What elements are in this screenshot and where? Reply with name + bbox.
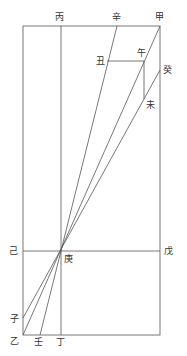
label-ren: 壬 [34,337,43,347]
label-wu2: 戊 [164,245,173,256]
label-yi: 乙 [10,336,19,346]
label-ji: 己 [9,246,18,256]
line-jia-yi [23,26,160,335]
label-wu: 午 [137,47,146,58]
label-gui: 癸 [163,64,172,75]
label-wei: 未 [146,99,155,110]
line-xin-ren [40,26,117,335]
diagram-canvas: 甲 辛 丙 丑 午 癸 未 己 戊 庚 子 乙 壬 丁 [0,0,187,356]
label-jia: 甲 [155,12,164,22]
label-ding: 丁 [56,337,65,347]
label-xin: 辛 [112,11,121,22]
line-gui-zi [23,70,160,318]
label-zi: 子 [10,314,19,324]
label-chou: 丑 [96,56,105,66]
label-geng: 庚 [64,253,73,264]
label-bing: 丙 [55,12,64,22]
